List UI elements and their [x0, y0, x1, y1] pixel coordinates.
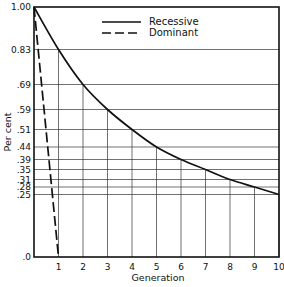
x-tick-label: 7 — [203, 262, 209, 272]
y-tick-label: .0 — [22, 252, 31, 262]
y-tick-label: .25 — [17, 190, 31, 200]
x-tick-label: 2 — [80, 262, 86, 272]
legend-dominant-label: Dominant — [149, 27, 198, 38]
y-tick-label: .39 — [17, 155, 32, 165]
x-tick-label: 4 — [129, 262, 135, 272]
x-tick-label: 6 — [178, 262, 184, 272]
y-axis-label: Per cent — [2, 112, 13, 151]
x-axis-label: Generation — [132, 272, 185, 283]
y-tick-label: 1.00 — [11, 2, 31, 12]
x-axis-ticks: 12345678910 — [56, 262, 284, 272]
x-tick-label: 10 — [273, 262, 284, 272]
y-tick-label: 0.83 — [11, 45, 31, 55]
x-tick-label: 5 — [154, 262, 160, 272]
legend-recessive-label: Recessive — [149, 16, 199, 27]
x-tick-label: 1 — [56, 262, 62, 272]
y-tick-label: .35 — [17, 165, 31, 175]
y-tick-label: .51 — [17, 125, 31, 135]
y-tick-label: .59 — [17, 105, 32, 115]
gridlines — [34, 50, 279, 258]
x-tick-label: 3 — [105, 262, 111, 272]
y-axis-ticks: 1.000.83.69.59.51.44.39.35.31.28.25.0 — [11, 2, 31, 262]
x-tick-label: 9 — [252, 262, 258, 272]
chart: 1.000.83.69.59.51.44.39.35.31.28.25.0 12… — [0, 0, 284, 287]
legend: Recessive Dominant — [102, 16, 199, 38]
y-tick-label: .44 — [17, 142, 32, 152]
y-tick-label: .69 — [17, 80, 32, 90]
x-tick-label: 8 — [227, 262, 233, 272]
